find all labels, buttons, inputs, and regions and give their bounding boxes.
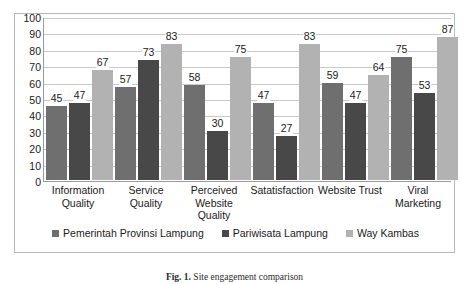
bar-slot: 83 — [299, 18, 320, 180]
bar[interactable] — [276, 136, 297, 180]
bar[interactable] — [184, 85, 205, 180]
bar[interactable] — [253, 103, 274, 180]
bar-slot: 47 — [69, 18, 90, 180]
bar-group: 583075 — [183, 18, 252, 180]
bar-value-label: 47 — [257, 90, 271, 101]
bar-value-label: 47 — [349, 90, 363, 101]
bar[interactable] — [414, 93, 435, 180]
y-axis-tick: 100 — [17, 13, 41, 23]
bar-slot: 87 — [437, 18, 458, 180]
bar-group: 577383 — [114, 18, 183, 180]
bar-slot: 75 — [230, 18, 251, 180]
bar-group: 472783 — [252, 18, 321, 180]
bar-value-label: 53 — [418, 80, 432, 91]
figure-frame: 1009080706050403020100 45476757738358307… — [14, 13, 455, 253]
bar-value-label: 45 — [50, 93, 64, 104]
bar[interactable] — [46, 106, 67, 180]
y-axis-tick: 20 — [17, 144, 41, 154]
y-axis-tick: 0 — [17, 177, 41, 187]
bar-slot: 57 — [115, 18, 136, 180]
legend-item[interactable]: Pariwisata Lampung — [222, 228, 328, 239]
bar-value-label: 59 — [326, 70, 340, 81]
bar-value-label: 64 — [372, 62, 386, 73]
legend-item[interactable]: Pemerintah Provinsi Lampung — [52, 228, 204, 239]
bar-value-label: 75 — [395, 44, 409, 55]
bar-slot: 30 — [207, 18, 228, 180]
bar-value-label: 83 — [303, 31, 317, 42]
x-axis-label: InformationQuality — [44, 184, 112, 222]
bar[interactable] — [138, 60, 159, 180]
bar[interactable] — [368, 75, 389, 180]
bar-chart: 1009080706050403020100 45476757738358307… — [15, 14, 456, 254]
bar[interactable] — [69, 103, 90, 180]
bar[interactable] — [161, 44, 182, 180]
bar-value-label: 47 — [73, 90, 87, 101]
bar-value-label: 58 — [188, 72, 202, 83]
bar-value-label: 75 — [234, 44, 248, 55]
bar[interactable] — [391, 57, 412, 180]
bar-group: 594764 — [321, 18, 390, 180]
bar-slot: 73 — [138, 18, 159, 180]
bar[interactable] — [115, 87, 136, 180]
legend-square-icon — [346, 230, 353, 237]
bar-slot: 67 — [92, 18, 113, 180]
bar-slot: 75 — [391, 18, 412, 180]
x-axis-label: Website Trust — [316, 184, 384, 222]
bar-slot: 27 — [276, 18, 297, 180]
bar[interactable] — [299, 44, 320, 180]
chart-legend: Pemerintah Provinsi LampungPariwisata La… — [15, 228, 456, 239]
bar-groups: 454767577383583075472783594764755387 — [45, 18, 451, 180]
bar[interactable] — [345, 103, 366, 180]
caption-text: Site engagement comparison — [193, 272, 303, 282]
legend-item[interactable]: Way Kambas — [346, 228, 419, 239]
y-axis-tick: 30 — [17, 128, 41, 138]
bar-group: 755387 — [390, 18, 459, 180]
legend-label: Way Kambas — [357, 228, 419, 239]
bar-slot: 47 — [253, 18, 274, 180]
y-axis-tick: 80 — [17, 46, 41, 56]
x-axis-categories: InformationQualityServiceQualityPerceive… — [44, 184, 452, 222]
bar-group: 454767 — [45, 18, 114, 180]
bar-slot: 58 — [184, 18, 205, 180]
bar-value-label: 73 — [142, 47, 156, 58]
legend-label: Pemerintah Provinsi Lampung — [63, 228, 204, 239]
y-axis-tick: 10 — [17, 161, 41, 171]
bar-value-label: 57 — [119, 74, 133, 85]
y-axis: 1009080706050403020100 — [17, 18, 41, 182]
y-axis-tick: 40 — [17, 111, 41, 121]
bar[interactable] — [207, 131, 228, 180]
x-axis-label: Satatisfaction — [248, 184, 316, 222]
bar-value-label: 87 — [441, 24, 455, 35]
bar-slot: 64 — [368, 18, 389, 180]
plot-area: 454767577383583075472783594764755387 — [43, 18, 451, 182]
x-axis-label: ServiceQuality — [112, 184, 180, 222]
x-axis-label: PerceivedWebsiteQuality — [180, 184, 248, 222]
figure-caption: Fig. 1. Site engagement comparison — [0, 272, 469, 283]
bar-value-label: 30 — [211, 118, 225, 129]
bar-slot: 53 — [414, 18, 435, 180]
x-axis-label: ViralMarketing — [384, 184, 452, 222]
bar[interactable] — [437, 37, 458, 180]
bar-value-label: 27 — [280, 123, 294, 134]
legend-square-icon — [222, 230, 229, 237]
y-axis-tick: 50 — [17, 95, 41, 105]
bar[interactable] — [322, 83, 343, 180]
bar-value-label: 83 — [165, 31, 179, 42]
bar-slot: 59 — [322, 18, 343, 180]
y-axis-tick: 90 — [17, 29, 41, 39]
bar-slot: 83 — [161, 18, 182, 180]
bar[interactable] — [92, 70, 113, 180]
y-axis-tick: 60 — [17, 79, 41, 89]
y-axis-tick: 70 — [17, 62, 41, 72]
caption-label: Fig. 1. — [166, 272, 191, 282]
legend-label: Pariwisata Lampung — [233, 228, 328, 239]
bar-slot: 47 — [345, 18, 366, 180]
bar[interactable] — [230, 57, 251, 180]
legend-square-icon — [52, 230, 59, 237]
bar-slot: 45 — [46, 18, 67, 180]
bar-value-label: 67 — [96, 57, 110, 68]
